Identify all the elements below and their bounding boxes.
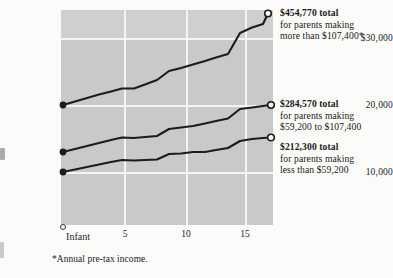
- callout-low-heading: $212,300 total: [280, 141, 354, 153]
- callout-mid-income: $284,570 total for parents making $59,20…: [280, 98, 361, 133]
- series-end-marker-mid: [268, 102, 275, 109]
- chart-page: $30,000 20,000 10,000 Infant 5 10 15 $45…: [0, 0, 393, 278]
- callout-low-line2: for parents making: [280, 153, 354, 165]
- series-line-low: [63, 138, 270, 173]
- series-end-marker-high: [265, 10, 272, 17]
- callout-mid-heading: $284,570 total: [280, 98, 361, 110]
- series-line-mid: [63, 105, 270, 152]
- callout-high-line3: more than $107,400*: [280, 30, 364, 42]
- footnote: *Annual pre-tax income.: [52, 254, 148, 264]
- series-start-marker-low: [60, 169, 67, 176]
- series-start-marker-mid: [60, 149, 67, 156]
- callout-low-income: $212,300 total for parents making less t…: [280, 141, 354, 176]
- callout-mid-line3: $59,200 to $107,400: [280, 121, 361, 133]
- callout-high-income: $454,770 total for parents making more t…: [280, 7, 364, 42]
- series-end-marker-low: [268, 134, 275, 141]
- page-edge-artifact-lower: [0, 242, 4, 258]
- callout-high-heading: $454,770 total: [280, 7, 364, 19]
- callout-mid-line2: for parents making: [280, 110, 361, 122]
- series-line-high: [63, 14, 268, 106]
- page-edge-artifact-upper: [0, 148, 5, 160]
- callout-high-line2: for parents making: [280, 19, 364, 31]
- series-start-marker-high: [60, 102, 67, 109]
- callout-low-line3: less than $59,200: [280, 164, 354, 176]
